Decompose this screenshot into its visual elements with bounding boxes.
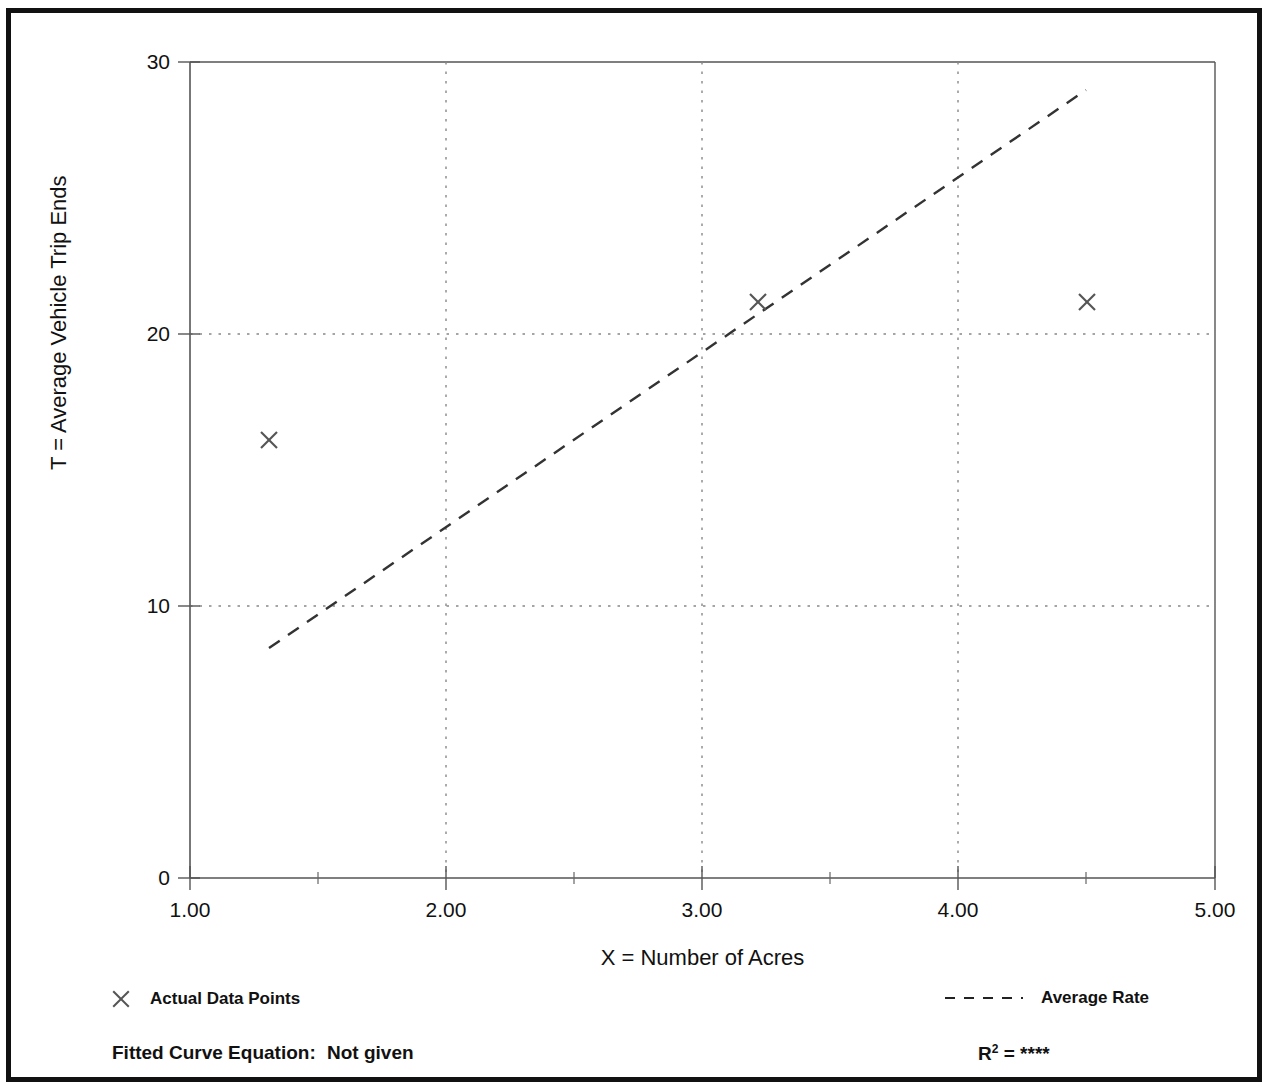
- chart-footer: Fitted Curve Equation: Not given R2 = **…: [100, 1042, 1210, 1076]
- x-axis-title: X = Number of Acres: [190, 945, 1215, 971]
- r-squared-label: R: [978, 1043, 992, 1064]
- chart-legend: Actual Data Points Average Rate: [100, 988, 1210, 1020]
- scatter-plot-svg: [0, 0, 1273, 1089]
- data-point-marker: [1079, 294, 1095, 310]
- x-tick-label-3: 3.00: [682, 898, 723, 922]
- dashed-line-icon: [945, 997, 1023, 999]
- fitted-curve-equation-value: Not given: [327, 1042, 414, 1063]
- x-tick-label-2: 2.00: [426, 898, 467, 922]
- r-squared-value: R2 = ****: [978, 1042, 1050, 1065]
- legend-label-actual-data-points: Actual Data Points: [150, 989, 300, 1009]
- x-tick-label-4: 4.00: [938, 898, 979, 922]
- fitted-curve-equation: Fitted Curve Equation: Not given: [112, 1042, 414, 1064]
- y-tick-label-20: 20: [120, 322, 170, 346]
- y-tick-label-0: 0: [130, 866, 170, 890]
- fitted-curve-equation-label: Fitted Curve Equation:: [112, 1042, 316, 1063]
- vertical-gridlines: [446, 62, 958, 878]
- x-marker-icon: [110, 988, 132, 1010]
- y-tick-label-30: 30: [120, 50, 170, 74]
- data-point-marker: [750, 294, 766, 310]
- legend-item-actual-data-points: Actual Data Points: [110, 988, 300, 1010]
- y-axis-title: T = Average Vehicle Trip Ends: [46, 50, 72, 470]
- r-squared-stars: ****: [1020, 1043, 1050, 1064]
- legend-label-average-rate: Average Rate: [1041, 988, 1149, 1008]
- r-squared-equals: =: [1004, 1043, 1015, 1064]
- legend-item-average-rate: Average Rate: [945, 988, 1149, 1008]
- y-axis-ticks: [178, 62, 200, 878]
- average-rate-trendline: [269, 90, 1086, 648]
- r-squared-exponent: 2: [992, 1042, 999, 1056]
- plot-container: 0 10 20 30 1.00 2.00 3.00 4.00 5.00 T = …: [0, 0, 1273, 1089]
- horizontal-gridlines: [190, 334, 1215, 606]
- figure-page: 0 10 20 30 1.00 2.00 3.00 4.00 5.00 T = …: [0, 0, 1273, 1089]
- x-tick-label-1: 1.00: [170, 898, 211, 922]
- x-tick-label-5: 5.00: [1195, 898, 1236, 922]
- data-point-markers: [261, 294, 1095, 448]
- data-point-marker: [261, 432, 277, 448]
- y-tick-label-10: 10: [120, 594, 170, 618]
